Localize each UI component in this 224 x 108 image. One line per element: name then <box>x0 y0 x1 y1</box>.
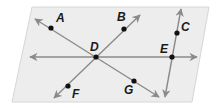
point-D-label: D <box>90 40 99 54</box>
point-C-label: C <box>181 20 190 34</box>
point-F-dot <box>65 83 70 88</box>
point-G-label: G <box>124 83 133 97</box>
geometry-diagram: ABCDEFG <box>0 0 224 108</box>
point-A-label: A <box>55 11 65 25</box>
point-B-dot <box>121 26 126 31</box>
point-A-dot <box>48 25 53 30</box>
point-E-dot <box>169 54 174 59</box>
point-F-label: F <box>72 87 80 101</box>
point-C-dot <box>174 30 179 35</box>
point-D-dot <box>93 54 98 59</box>
point-B-label: B <box>117 10 126 24</box>
point-E-label: E <box>160 42 169 56</box>
